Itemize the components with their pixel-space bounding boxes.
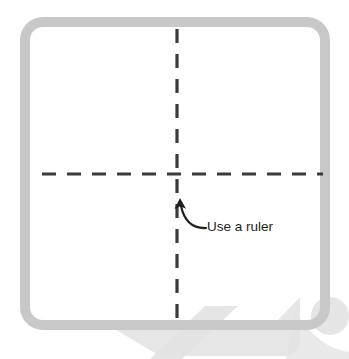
- curved-arrow-shaft: [181, 206, 206, 228]
- use-a-ruler-label: Use a ruler: [207, 219, 274, 234]
- diagram-canvas: Use a ruler: [0, 0, 349, 359]
- use-a-ruler-annotation: Use a ruler: [0, 0, 349, 359]
